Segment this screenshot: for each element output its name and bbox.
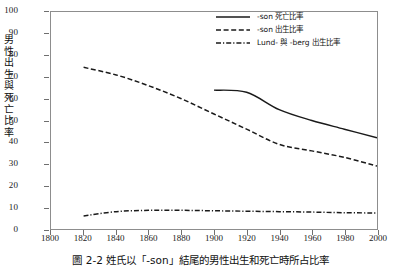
y-tick-mark (44, 11, 49, 12)
x-tick-mark (50, 230, 51, 235)
y-tick-label: 70 (0, 72, 18, 81)
legend-item: -son 出生比率 (215, 23, 375, 36)
x-tick-mark (83, 230, 84, 235)
x-tick-mark (148, 230, 149, 235)
legend-label: -son 死亡比率 (251, 13, 303, 21)
legend-label: -son 出生比率 (251, 26, 303, 34)
y-tick-mark (44, 230, 49, 231)
legend-item: Lund- 與 -berg 出生比率 (215, 36, 375, 49)
series-line-0 (214, 90, 377, 138)
legend-label: Lund- 與 -berg 出生比率 (251, 39, 340, 47)
y-tick-label: 40 (0, 137, 18, 146)
legend-item: -son 死亡比率 (215, 10, 375, 23)
y-tick-label: 10 (0, 203, 18, 212)
x-tick-mark (345, 230, 346, 235)
legend-swatch-solid (215, 12, 251, 22)
y-tick-mark (44, 121, 49, 122)
x-tick-mark (312, 230, 313, 235)
y-tick-label: 30 (0, 159, 18, 168)
legend-swatch-dash-dot (215, 38, 251, 48)
x-tick-mark (378, 230, 379, 235)
y-tick-mark (44, 142, 49, 143)
y-tick-label: 90 (0, 28, 18, 37)
y-tick-label: 0 (0, 225, 18, 234)
y-tick-mark (44, 208, 49, 209)
y-tick-label: 100 (0, 6, 18, 15)
figure: 男性出生與死亡比率 0102030405060708090100 1800182… (0, 0, 401, 269)
y-tick-label: 80 (0, 50, 18, 59)
y-tick-mark (44, 55, 49, 56)
x-tick-mark (214, 230, 215, 235)
y-tick-label: 50 (0, 116, 18, 125)
y-tick-mark (44, 186, 49, 187)
y-tick-label: 60 (0, 94, 18, 103)
series-line-1 (84, 67, 377, 166)
y-tick-mark (44, 77, 49, 78)
legend-swatch-dashed (215, 25, 251, 35)
legend: -son 死亡比率-son 出生比率Lund- 與 -berg 出生比率 (215, 10, 375, 49)
y-tick-label: 20 (0, 181, 18, 190)
y-tick-mark (44, 99, 49, 100)
x-tick-mark (280, 230, 281, 235)
x-tick-mark (247, 230, 248, 235)
x-tick-label: 2000 (358, 234, 398, 243)
series-line-2 (84, 210, 377, 216)
x-tick-mark (116, 230, 117, 235)
y-tick-mark (44, 33, 49, 34)
figure-caption: 圖 2-2 姓氏以「-son」結尾的男性出生和死亡時所占比率 (0, 254, 401, 267)
y-tick-mark (44, 164, 49, 165)
x-tick-mark (181, 230, 182, 235)
